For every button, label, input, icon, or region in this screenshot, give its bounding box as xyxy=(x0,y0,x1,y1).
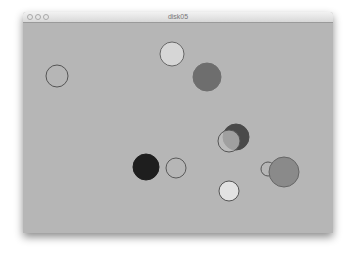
app-window: disk05 xyxy=(23,12,333,233)
disk-circle xyxy=(219,181,239,201)
disk-circle xyxy=(166,158,186,178)
window-title: disk05 xyxy=(23,12,333,22)
disk-circle xyxy=(46,65,68,87)
disk-circle xyxy=(193,63,221,91)
disk-circle xyxy=(133,154,159,180)
disk-canvas-svg xyxy=(23,23,333,233)
drawing-canvas[interactable] xyxy=(23,23,333,233)
disk-circle xyxy=(160,42,184,66)
disk-circle xyxy=(218,130,240,152)
disk-circle xyxy=(269,157,299,187)
title-bar[interactable]: disk05 xyxy=(23,12,333,23)
